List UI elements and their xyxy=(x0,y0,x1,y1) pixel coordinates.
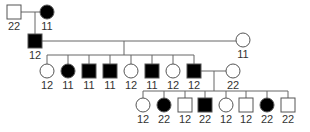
pedigree-chart: 2211121112111111121112122212221222121222… xyxy=(0,0,310,132)
individual-iii6: 11 xyxy=(145,64,159,91)
individual-iii1: 12 xyxy=(40,64,54,91)
genotype-label: 12 xyxy=(29,49,41,61)
individual-iv5: 12 xyxy=(219,98,233,125)
genotype-label: 12 xyxy=(179,113,191,125)
affected-male-square-icon xyxy=(198,98,212,112)
unaffected-female-circle-icon xyxy=(124,64,138,78)
genotype-label: 22 xyxy=(261,113,273,125)
affected-male-square-icon xyxy=(28,34,42,48)
affected-male-square-icon xyxy=(187,64,201,78)
unaffected-male-square-icon xyxy=(178,98,192,112)
genotype-label: 22 xyxy=(8,20,20,32)
unaffected-female-circle-icon xyxy=(136,98,150,112)
genotype-label: 11 xyxy=(62,79,73,91)
genotype-label: 22 xyxy=(199,113,211,125)
genotype-label: 22 xyxy=(227,79,239,91)
genotype-label: 12 xyxy=(137,113,149,125)
individual-iii7: 12 xyxy=(166,64,180,91)
unaffected-male-square-icon xyxy=(7,5,21,19)
individual-iii4: 11 xyxy=(103,64,117,91)
genotype-label: 12 xyxy=(167,79,179,91)
affected-male-square-icon xyxy=(82,64,96,78)
genotype-label: 11 xyxy=(146,79,157,91)
individual-i1: 22 xyxy=(7,5,21,32)
unaffected-male-square-icon xyxy=(281,98,295,112)
genotype-label: 11 xyxy=(83,79,94,91)
affected-female-circle-icon xyxy=(40,5,54,19)
genotype-label: 11 xyxy=(237,48,248,60)
affected-male-square-icon xyxy=(103,64,117,78)
genotype-label: 12 xyxy=(125,79,137,91)
genotype-label: 22 xyxy=(282,113,294,125)
individual-iii2: 11 xyxy=(61,64,75,91)
unaffected-female-circle-icon xyxy=(166,64,180,78)
individual-i2: 11 xyxy=(40,5,54,32)
genotype-label: 12 xyxy=(240,113,252,125)
unaffected-female-circle-icon xyxy=(219,98,233,112)
genotype-label: 11 xyxy=(41,20,52,32)
genotype-label: 12 xyxy=(41,79,53,91)
individual-ii2: 11 xyxy=(236,33,250,60)
unaffected-female-circle-icon xyxy=(40,64,54,78)
individual-iv7: 22 xyxy=(260,98,274,125)
individual-iv1: 12 xyxy=(136,98,150,125)
unaffected-female-circle-icon xyxy=(236,33,250,47)
individuals: 2211121112111111121112122212221222121222… xyxy=(7,5,295,125)
individual-iv2: 22 xyxy=(157,98,171,125)
pedigree-svg: 2211121112111111121112122212221222121222… xyxy=(0,0,310,132)
individual-iv4: 22 xyxy=(198,98,212,125)
affected-female-circle-icon xyxy=(157,98,171,112)
genotype-label: 11 xyxy=(104,79,115,91)
individual-iii8: 12 xyxy=(187,64,201,91)
affected-male-square-icon xyxy=(145,64,159,78)
individual-iii5: 12 xyxy=(124,64,138,91)
genotype-label: 22 xyxy=(158,113,170,125)
individual-iv3: 12 xyxy=(178,98,192,125)
individual-ii1: 12 xyxy=(28,34,42,61)
affected-female-circle-icon xyxy=(260,98,274,112)
individual-iv6: 12 xyxy=(239,98,253,125)
unaffected-female-circle-icon xyxy=(226,64,240,78)
unaffected-male-square-icon xyxy=(239,98,253,112)
individual-iv8: 22 xyxy=(281,98,295,125)
genotype-label: 12 xyxy=(188,79,200,91)
individual-iii9: 22 xyxy=(226,64,240,91)
affected-female-circle-icon xyxy=(61,64,75,78)
individual-iii3: 11 xyxy=(82,64,96,91)
genotype-label: 12 xyxy=(220,113,232,125)
